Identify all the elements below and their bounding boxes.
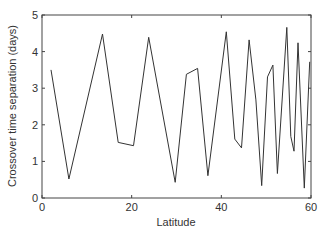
y-tick-label: 5 bbox=[32, 9, 38, 21]
y-tick-label: 3 bbox=[32, 82, 38, 94]
y-axis-label: Crossover time separation (days) bbox=[6, 25, 18, 187]
x-tick-label: 20 bbox=[126, 201, 138, 213]
x-axis-label: Latitude bbox=[156, 216, 195, 228]
line-chart: 0204060012345 Latitude Crossover time se… bbox=[0, 0, 325, 233]
data-series bbox=[51, 27, 310, 188]
y-tick-label: 1 bbox=[32, 155, 38, 167]
x-tick-label: 0 bbox=[39, 201, 45, 213]
y-tick-label: 2 bbox=[32, 119, 38, 131]
x-tick-label: 40 bbox=[215, 201, 227, 213]
y-tick-label: 4 bbox=[32, 46, 38, 58]
series-line bbox=[51, 27, 310, 188]
y-tick-label: 0 bbox=[32, 192, 38, 204]
x-tick-label: 60 bbox=[305, 201, 317, 213]
